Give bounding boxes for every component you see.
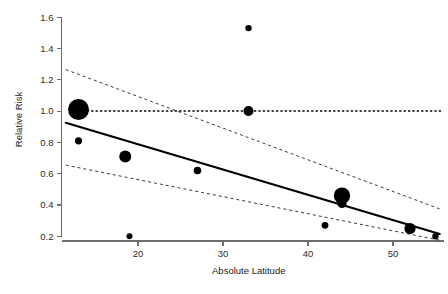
x-tick-label: 40 <box>303 248 314 259</box>
y-tick-label: 0.6 <box>40 168 53 179</box>
data-point[interactable] <box>432 233 438 239</box>
y-tick-label: 1.2 <box>40 74 53 85</box>
scatter-plot: 0.20.40.60.81.01.21.41.620304050 Absolut… <box>0 0 448 294</box>
y-tick-label: 0.2 <box>40 231 53 242</box>
x-tick-label: 30 <box>218 248 229 259</box>
data-point[interactable] <box>127 233 133 239</box>
data-point[interactable] <box>337 199 346 208</box>
y-tick-label: 1.4 <box>40 43 53 54</box>
data-point[interactable] <box>119 150 131 162</box>
data-point[interactable] <box>404 223 415 234</box>
chart-container: 0.20.40.60.81.01.21.41.620304050 Absolut… <box>0 0 448 294</box>
data-point[interactable] <box>194 167 202 175</box>
y-tick-label: 0.4 <box>40 199 53 210</box>
data-point[interactable] <box>245 25 251 31</box>
y-axis-title: Relative Risk <box>13 92 24 148</box>
x-tick-label: 50 <box>388 248 399 259</box>
y-tick-label: 1.6 <box>40 12 53 23</box>
data-point[interactable] <box>322 222 329 229</box>
x-axis-title: Absolute Latitude <box>212 265 285 276</box>
data-point[interactable] <box>68 99 89 120</box>
data-point[interactable] <box>244 106 254 116</box>
data-point[interactable] <box>75 137 82 144</box>
y-tick-label: 1.0 <box>40 105 53 116</box>
y-tick-label: 0.8 <box>40 137 53 148</box>
x-tick-label: 20 <box>133 248 144 259</box>
